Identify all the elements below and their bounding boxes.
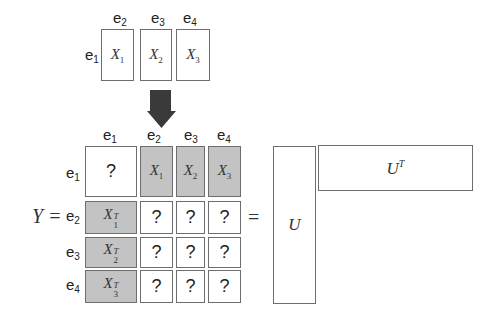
matrix-col-label-e2: e2: [147, 127, 161, 145]
matrix-col-label-e4: e4: [217, 127, 231, 145]
equals-sign: =: [248, 206, 259, 229]
cell-r2-c2: ?: [140, 201, 173, 234]
ut-matrix: UT: [318, 145, 473, 191]
cell-r1-c4: X3: [208, 146, 241, 197]
y-equals-label: Y =: [32, 205, 62, 228]
down-arrow-icon: [146, 90, 178, 130]
top-col-label-e2: e2: [113, 10, 127, 28]
cell-r3-c1: XT2: [85, 237, 137, 268]
matrix-row-label-e4: e4: [66, 277, 80, 295]
top-col-label-e4: e4: [183, 10, 197, 28]
matrix-col-label-e1: e1: [103, 127, 117, 145]
cell-r3-c4: ?: [208, 237, 241, 268]
cell-r2-c1: XT1: [85, 201, 137, 234]
cell-r1-c1: ?: [85, 146, 137, 197]
cell-r3-c3: ?: [176, 237, 205, 268]
cell-r3-c2: ?: [140, 237, 173, 268]
u-matrix: U: [273, 146, 316, 304]
cell-r1-c2: X1: [140, 146, 173, 197]
top-block-x2: X2: [140, 29, 172, 81]
matrix-row-label-e2: e2: [66, 208, 80, 226]
matrix-row-label-e3: e3: [66, 244, 80, 262]
top-row-label-e1: e1: [85, 47, 99, 65]
matrix-row-label-e1: e1: [66, 165, 80, 183]
cell-r4-c3: ?: [176, 270, 205, 303]
top-block-x1: X1: [101, 29, 134, 81]
cell-r2-c3: ?: [176, 201, 205, 234]
matrix-col-label-e3: e3: [184, 127, 198, 145]
cell-r4-c2: ?: [140, 270, 173, 303]
cell-r4-c4: ?: [208, 270, 241, 303]
cell-r1-c3: X2: [176, 146, 205, 197]
top-block-x3: X3: [176, 29, 210, 81]
cell-r2-c4: ?: [208, 201, 241, 234]
top-col-label-e3: e3: [151, 10, 165, 28]
cell-r4-c1: XT3: [85, 270, 137, 303]
